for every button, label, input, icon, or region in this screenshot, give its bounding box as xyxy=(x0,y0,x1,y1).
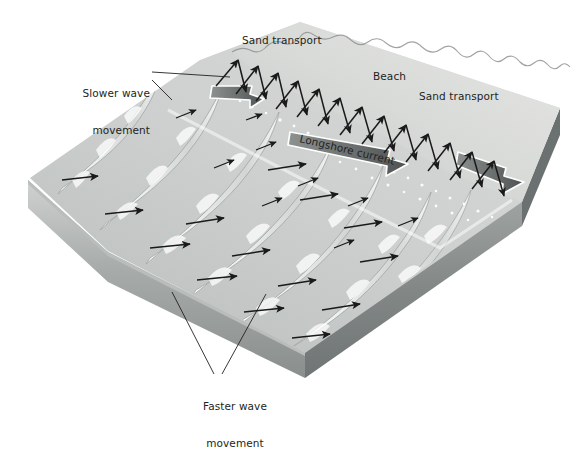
label-slower-wave-line2: movement xyxy=(52,124,150,136)
label-slower-wave-line1: Slower wave xyxy=(52,87,150,99)
label-beach: Beach xyxy=(373,70,406,82)
label-slower-wave-movement: Slower wave movement xyxy=(52,62,150,149)
label-faster-wave-line1: Faster wave xyxy=(175,400,295,412)
label-sand-transport-left: Sand transport xyxy=(242,34,322,46)
label-faster-wave-movement: Faster wave movement xyxy=(175,375,295,451)
label-faster-wave-line2: movement xyxy=(175,437,295,449)
label-sand-transport-right: Sand transport xyxy=(419,90,499,102)
